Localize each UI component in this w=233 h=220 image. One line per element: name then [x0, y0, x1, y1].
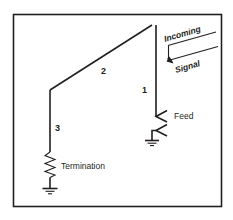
ground-symbol-termination-icon — [43, 189, 58, 194]
label-segment-3: 3 — [55, 123, 60, 133]
arrow-head-icon — [167, 57, 174, 64]
resistor-zigzag-icon — [45, 152, 55, 178]
antenna-diagram-figure: 2 1 3 Feed Termination Incoming Signal — [0, 0, 233, 220]
wire-segment-2 — [50, 25, 152, 90]
diagram-canvas: 2 1 3 Feed Termination Incoming Signal — [0, 0, 233, 220]
label-feed: Feed — [174, 111, 194, 121]
ground-symbol-feed-icon — [145, 141, 159, 146]
feed-connector-lower-icon — [156, 125, 167, 137]
label-signal: Signal — [174, 58, 202, 75]
label-termination: Termination — [61, 161, 105, 171]
feed-ground-lead — [152, 131, 156, 141]
label-segment-2: 2 — [101, 66, 106, 76]
feed-connector-upper-icon — [156, 111, 167, 123]
label-segment-1: 1 — [142, 85, 147, 95]
